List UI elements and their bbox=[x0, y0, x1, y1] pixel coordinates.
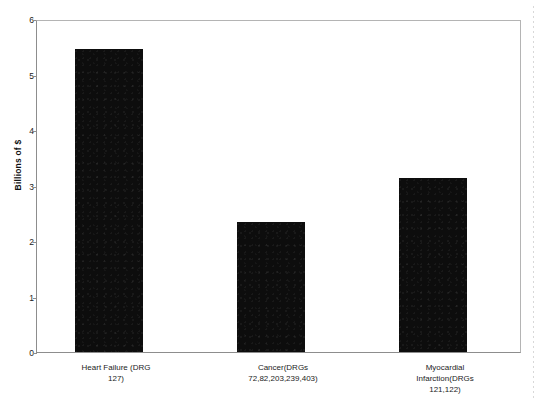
bar-cancer bbox=[237, 222, 305, 352]
y-tick-label-5: 5 bbox=[0, 71, 34, 81]
y-tick-mark-0 bbox=[33, 353, 37, 354]
y-tick-label-4: 4 bbox=[0, 126, 34, 136]
y-tick-label-2: 2 bbox=[0, 237, 34, 247]
y-tick-label-6: 6 bbox=[0, 15, 34, 25]
x-axis-label-myocardial-infarction: Myocardial Infarction(DRGs 121,122) bbox=[382, 362, 508, 395]
bar-heart-failure bbox=[75, 49, 143, 352]
x-axis-label-heart-failure: Heart Failure (DRG 127) bbox=[56, 362, 176, 384]
bar-myocardial-infarction bbox=[399, 178, 467, 352]
y-tick-label-1: 1 bbox=[0, 293, 34, 303]
y-tick-label-0: 0 bbox=[0, 348, 34, 358]
x-axis-label-cancer: Cancer(DRGs 72,82,203,239,403) bbox=[218, 362, 348, 384]
y-axis-title: Billions of $ bbox=[13, 105, 23, 225]
y-tick-label-3: 3 bbox=[0, 182, 34, 192]
plot-area bbox=[36, 20, 521, 353]
scan-page-edge bbox=[533, 6, 534, 398]
bar-chart: Billions of $ 0 1 2 3 4 5 6 Heart Failur… bbox=[0, 0, 536, 404]
